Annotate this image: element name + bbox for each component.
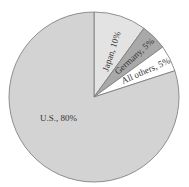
pie-chart: Japan, 10% Germany, 5% All others, 5% U.… xyxy=(0,0,189,187)
label-us: U.S., 80% xyxy=(40,113,78,123)
pie-slices xyxy=(9,12,179,182)
